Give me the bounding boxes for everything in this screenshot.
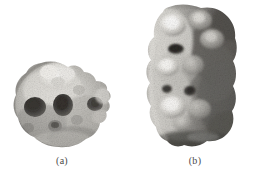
specimen-image-a bbox=[11, 60, 115, 150]
specimen-a-graphic bbox=[11, 60, 115, 150]
figure-plate: (a) bbox=[0, 0, 257, 181]
panel-b-caption: (b) bbox=[140, 155, 250, 167]
specimen-b-graphic bbox=[143, 3, 245, 149]
figure-panel-a: (a) bbox=[6, 56, 118, 152]
specimen-image-b bbox=[143, 3, 245, 149]
panel-a-caption: (a) bbox=[6, 155, 118, 167]
figure-panel-b: (b) bbox=[140, 0, 250, 152]
